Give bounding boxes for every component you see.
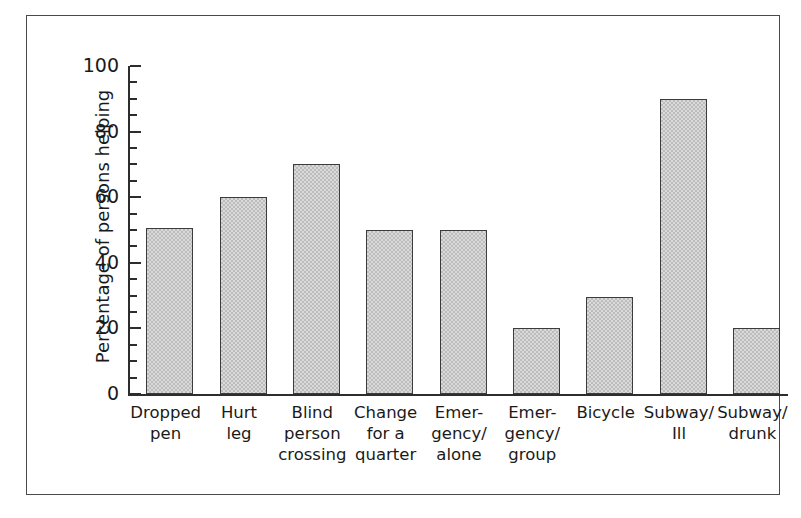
x-axis-tick-label: Change for a quarter	[349, 402, 422, 465]
y-axis-tick-label: 60	[95, 187, 119, 206]
bar-series	[130, 66, 788, 394]
bar	[586, 297, 633, 394]
x-axis-tick-label: Hurt leg	[202, 402, 275, 444]
bar	[513, 328, 560, 394]
y-axis-tick-label: 40	[95, 253, 119, 272]
bar	[440, 230, 487, 394]
x-axis-tick-label: Emer- gency/ group	[496, 402, 569, 465]
x-axis-tick-label: Bicycle	[569, 402, 642, 423]
x-axis-line	[128, 394, 788, 396]
y-axis-tick-labels: 020406080100	[69, 66, 119, 394]
x-axis-tick-label: Dropped pen	[129, 402, 202, 444]
x-axis-tick-labels: Dropped penHurt legBlind person crossing…	[130, 402, 788, 482]
x-axis-tick-label: Emer- gency/ alone	[422, 402, 495, 465]
y-axis-tick-label: 20	[95, 318, 119, 337]
y-axis-tick-label: 80	[95, 122, 119, 141]
plot-area	[128, 66, 788, 394]
figure: Percentage of persons helping 0204060801…	[0, 0, 801, 518]
x-axis-tick-label: Blind person crossing	[276, 402, 349, 465]
y-axis-tick-label: 0	[107, 384, 119, 403]
bar	[146, 228, 193, 394]
y-axis-tick-label: 100	[83, 56, 119, 75]
figure-border: Percentage of persons helping 0204060801…	[26, 15, 780, 495]
bar	[660, 99, 707, 394]
bar	[366, 230, 413, 394]
x-axis-tick-label: Subway/ drunk	[716, 402, 789, 444]
x-axis-tick-label: Subway/ Ill	[642, 402, 715, 444]
bar	[733, 328, 780, 394]
bar	[220, 197, 267, 394]
bar	[293, 164, 340, 394]
